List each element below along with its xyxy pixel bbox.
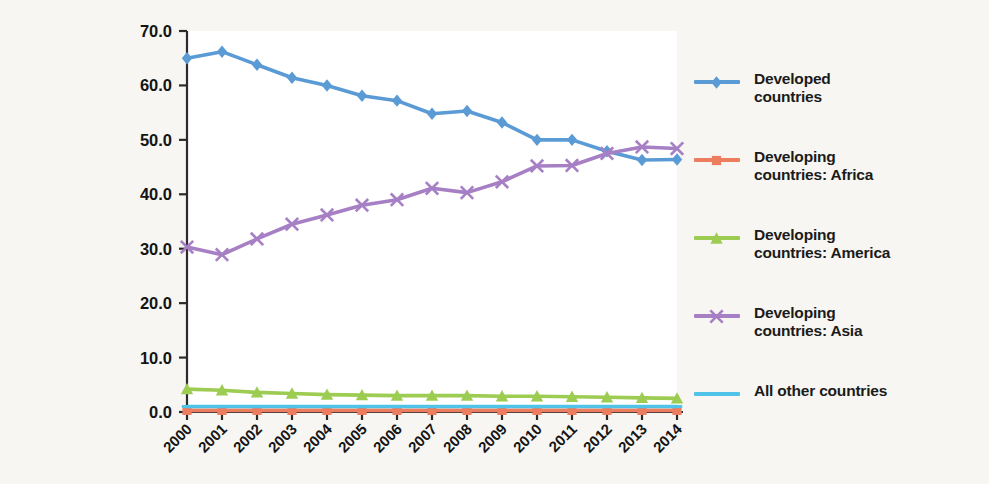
x-tick-label: 2004 bbox=[300, 420, 336, 456]
x-tick-label: 2008 bbox=[440, 420, 476, 456]
legend-item[interactable]: Developing countries: Africa bbox=[694, 148, 984, 190]
x-tick-label: 2014 bbox=[650, 420, 686, 456]
x-tick-label: 2001 bbox=[195, 420, 231, 456]
legend-item-label: Developing countries: Asia bbox=[754, 304, 862, 340]
legend-marker-cross-icon bbox=[694, 309, 740, 321]
x-tick-label: 2007 bbox=[405, 420, 441, 456]
legend-item-label: All other countries bbox=[754, 382, 887, 400]
y-tick-label: 70.0 bbox=[140, 22, 172, 40]
legend-item[interactable]: Developing countries: Asia bbox=[694, 304, 984, 346]
y-tick-label: 60.0 bbox=[140, 76, 172, 94]
legend-item-label: Developing countries: America bbox=[754, 226, 890, 262]
legend-item-label: Developing countries: Africa bbox=[754, 148, 873, 184]
y-tick-label: 0.0 bbox=[149, 403, 172, 421]
legend-item-label: Developed countries bbox=[754, 70, 831, 106]
y-tick-label: 50.0 bbox=[140, 131, 172, 149]
chart-figure: 0.010.020.030.040.050.060.070.0200020012… bbox=[0, 0, 989, 484]
legend-item[interactable]: All other countries bbox=[694, 382, 984, 424]
chart-legend: Developed countriesDeveloping countries:… bbox=[694, 70, 984, 460]
x-tick-label: 2013 bbox=[615, 420, 651, 456]
x-tick-label: 2011 bbox=[545, 420, 580, 455]
y-tick-label: 40.0 bbox=[140, 185, 172, 203]
x-tick-label: 2010 bbox=[510, 420, 546, 456]
y-tick-label: 20.0 bbox=[140, 294, 172, 312]
x-tick-label: 2000 bbox=[160, 420, 196, 456]
legend-marker-diamond-icon bbox=[694, 75, 740, 87]
x-tick-label: 2012 bbox=[580, 420, 616, 456]
x-tick-label: 2006 bbox=[370, 420, 406, 456]
x-tick-label: 2009 bbox=[475, 420, 511, 456]
legend-item[interactable]: Developing countries: America bbox=[694, 226, 984, 268]
y-tick-label: 30.0 bbox=[140, 240, 172, 258]
x-tick-label: 2002 bbox=[230, 420, 266, 456]
legend-item[interactable]: Developed countries bbox=[694, 70, 984, 112]
x-tick-label: 2003 bbox=[265, 420, 301, 456]
legend-marker-triangle-icon bbox=[694, 231, 740, 243]
x-tick-label: 2005 bbox=[335, 420, 371, 456]
legend-marker-line-icon bbox=[694, 387, 740, 399]
y-tick-label: 10.0 bbox=[140, 349, 172, 367]
legend-marker-square-icon bbox=[694, 153, 740, 165]
